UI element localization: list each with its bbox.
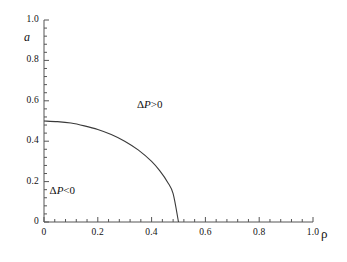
y-tick-label: 0.8 [14, 54, 39, 64]
y-tick-label: 0.2 [14, 176, 39, 186]
phase-boundary-curve [44, 121, 179, 222]
x-tick-label: 0.4 [142, 227, 162, 237]
x-tick-label: 1.0 [303, 227, 323, 237]
region-label-delta-p-positive: ΔP>0 [137, 98, 163, 110]
y-axis-label: a [24, 30, 30, 45]
plot-canvas [0, 0, 347, 262]
delta-symbol: Δ [50, 184, 57, 196]
x-tick-label: 0.8 [249, 227, 269, 237]
region-label-delta-p-negative: ΔP<0 [50, 184, 76, 196]
x-tick-label: 0.2 [88, 227, 108, 237]
axis-ticks [44, 20, 313, 222]
x-tick-label: 0 [34, 227, 54, 237]
phase-diagram-figure: a ρ ΔP>0 ΔP<0 00.20.40.60.81.0 00.20.40.… [0, 0, 347, 262]
pressure-symbol: P [144, 98, 151, 110]
comparison-text: >0 [151, 98, 163, 110]
y-tick-label: 0 [14, 216, 39, 226]
y-tick-label: 0.4 [14, 135, 39, 145]
y-tick-label: 0.6 [14, 95, 39, 105]
y-tick-label: 1.0 [14, 14, 39, 24]
x-tick-label: 0.6 [195, 227, 215, 237]
delta-symbol: Δ [137, 98, 144, 110]
comparison-text: <0 [63, 184, 75, 196]
